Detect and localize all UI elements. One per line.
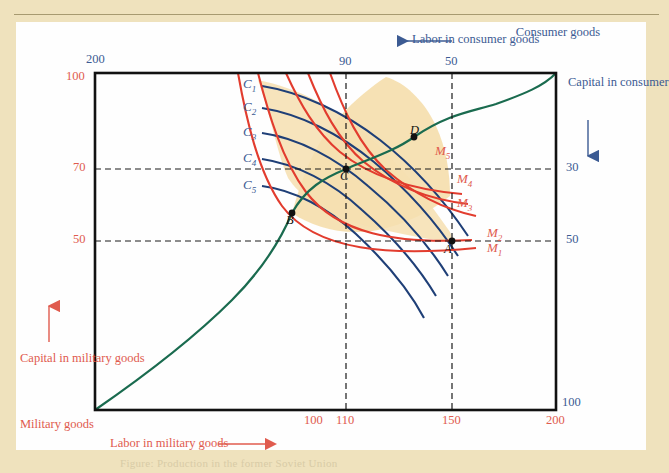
point-label-C: C — [340, 170, 348, 184]
right-tick-100: 100 — [562, 396, 581, 410]
curve-label-C1-sub: 1 — [252, 84, 257, 94]
curve-label-M5-sub: 5 — [446, 151, 451, 161]
curve-label-C3-base: C — [243, 124, 252, 139]
curve-label-M2-base: M — [487, 225, 498, 240]
curve-label-C5: C5 — [243, 178, 256, 195]
curve-label-C1-base: C — [243, 76, 252, 91]
curve-label-C4: C4 — [243, 151, 256, 168]
bottom-tick-110: 110 — [336, 414, 354, 428]
left-axis-label: Capital in military goods — [20, 352, 80, 366]
bottom-tick-100: 100 — [304, 414, 323, 428]
curve-label-M5-base: M — [435, 143, 446, 158]
bottom-tick-150: 150 — [442, 414, 461, 428]
left-tick-70: 70 — [73, 161, 86, 175]
curve-label-C1: C1 — [243, 77, 256, 94]
right-tick-50: 50 — [566, 233, 579, 247]
consumer-goods-origin-label: Consumer goods — [512, 26, 604, 40]
point-label-B: B — [286, 214, 294, 228]
left-tick-100: 100 — [66, 70, 85, 84]
point-label-D: D — [410, 124, 419, 138]
bottom-tick-200: 200 — [546, 414, 565, 428]
curve-label-C4-base: C — [243, 150, 252, 165]
bottom-axis-label: Labor in military goods — [110, 437, 228, 451]
curve-label-C3: C3 — [243, 125, 256, 142]
curve-label-M4-base: M — [457, 171, 468, 186]
top-tick-90: 90 — [339, 55, 352, 69]
left-tick-50: 50 — [73, 233, 86, 247]
curve-label-C4-sub: 4 — [252, 158, 257, 168]
left-top-tick-200: 200 — [86, 53, 105, 67]
curve-label-M3-sub: 3 — [468, 203, 473, 213]
curve-label-C2-base: C — [243, 99, 252, 114]
curve-label-C2-sub: 2 — [252, 107, 257, 117]
top-tick-50: 50 — [445, 55, 458, 69]
curve-label-M4: M4 — [457, 172, 472, 189]
curve-label-C3-sub: 3 — [252, 132, 257, 142]
curve-label-M3-base: M — [457, 195, 468, 210]
curve-label-C2: C2 — [243, 100, 256, 117]
curve-label-M5: M5 — [435, 144, 450, 161]
point-label-A: A — [444, 243, 452, 257]
curve-label-M3: M3 — [457, 196, 472, 213]
curve-label-M1-sub: 1 — [498, 248, 503, 258]
military-goods-origin-label: Military goods — [20, 418, 80, 432]
right-axis-label: Capital in consumer goods — [568, 76, 652, 90]
figure-root: Labor in consumer goods Consumer goods 9… — [0, 0, 669, 473]
curve-label-C5-sub: 5 — [252, 185, 257, 195]
right-tick-30: 30 — [566, 161, 579, 175]
curve-label-C5-base: C — [243, 177, 252, 192]
curve-label-M4-sub: 4 — [468, 179, 473, 189]
curve-label-M1-base: M — [487, 240, 498, 255]
curve-label-M1: M1 — [487, 241, 502, 258]
figure-caption: Figure: Production in the former Soviet … — [120, 457, 550, 473]
